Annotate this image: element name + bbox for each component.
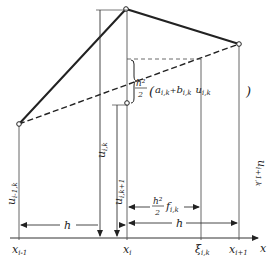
label-axis-x: x <box>260 242 267 255</box>
label-bracket-term: h² 2 ( ai,k+bi,kui,k ) <box>135 78 251 99</box>
svg-text:ai,k+bi,kui,k: ai,k+bi,kui,k <box>155 84 211 97</box>
label-h-left: h <box>64 219 71 232</box>
label-x-ip1: xi+1 <box>229 243 248 257</box>
svg-text:h²: h² <box>136 78 146 88</box>
label-u-i-kp1: ui,k+1 <box>112 179 126 205</box>
svg-text:h²: h² <box>153 196 163 206</box>
label-x-i: xi <box>123 243 131 257</box>
solid-polyline <box>19 9 239 124</box>
svg-text:2: 2 <box>154 208 160 217</box>
label-u-ip1-k: ui+1,k <box>254 160 268 186</box>
u-i-kp1-dimension <box>112 105 127 236</box>
svg-text:): ) <box>245 84 251 99</box>
label-source-term: h² 2 fi,k <box>152 196 179 217</box>
label-u-im1-k: ui-1,k <box>5 182 19 205</box>
label-x-im1: xi-1 <box>12 243 27 257</box>
label-h-right: h <box>176 217 183 230</box>
finite-difference-diagram: xi-1 xi ξi,k xi+1 x h h h² 2 fi,k h² 2 (… <box>0 0 269 260</box>
dashed-chord <box>19 44 239 124</box>
svg-text:fi,k: fi,k <box>165 200 179 214</box>
label-xi: ξi,k <box>195 243 210 257</box>
node-circle-im1 <box>17 122 22 127</box>
node-circle-ip1 <box>237 42 242 47</box>
node-circle-i-top <box>124 7 129 12</box>
label-u-i-k: ui,k <box>95 142 109 158</box>
svg-text:2: 2 <box>137 90 143 99</box>
